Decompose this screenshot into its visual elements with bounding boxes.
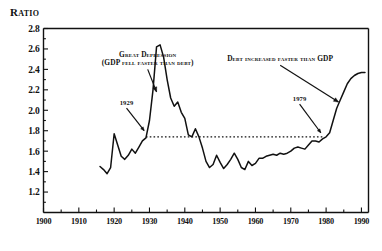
debt-to-gdp-ratio-line-chart: 2.82.62.42.22.01.81.61.41.2 190019101920… [0, 0, 382, 251]
annotation-arrow-year-1979 [300, 104, 321, 133]
x-tick-group: 1900191019201930194019501960197019801990 [36, 208, 370, 226]
y-tick-label: 2.4 [28, 65, 40, 75]
chart-plot-area: 2.82.62.42.22.01.81.61.41.2 190019101920… [0, 0, 382, 251]
y-tick-group: 2.82.62.42.22.01.81.61.41.2 [28, 24, 48, 202]
y-tick-label: 2.6 [28, 44, 40, 54]
x-tick-label: 1990 [354, 217, 370, 226]
y-tick-label: 2.0 [28, 106, 40, 116]
x-tick-label: 1940 [177, 217, 193, 226]
y-tick-label: 2.2 [28, 85, 40, 95]
x-tick-label: 1930 [142, 217, 158, 226]
annotation-group: Great Depression(GDP fell faster than de… [102, 50, 339, 133]
x-tick-label: 1950 [212, 217, 228, 226]
y-tick-label: 1.8 [28, 126, 40, 136]
annotation-arrow-debt-faster [280, 65, 338, 102]
annotation-label-great-depression: (GDP fell faster than debt) [102, 58, 194, 67]
y-tick-label: 1.2 [28, 187, 40, 197]
y-tick-label: 1.4 [28, 167, 40, 177]
x-tick-label: 1980 [318, 217, 334, 226]
x-tick-label: 1920 [106, 217, 122, 226]
annotation-arrow-year-1929 [127, 108, 145, 130]
annotation-arrowhead-debt-faster [333, 98, 338, 102]
annotation-label-debt-faster: Debt increased faster than GDP [227, 54, 333, 63]
annotation-label-year-1929: 1929 [120, 99, 134, 106]
x-tick-label: 1960 [248, 217, 264, 226]
y-tick-label: 1.6 [28, 147, 40, 157]
x-tick-label: 1910 [71, 217, 87, 226]
annotation-label-year-1979: 1979 [293, 95, 307, 102]
x-tick-label: 1900 [36, 217, 52, 226]
x-tick-label: 1970 [283, 217, 299, 226]
chart-root: Ratio 2.82.62.42.22.01.81.61.41.2 190019… [0, 0, 382, 251]
y-tick-label: 2.8 [28, 24, 40, 34]
